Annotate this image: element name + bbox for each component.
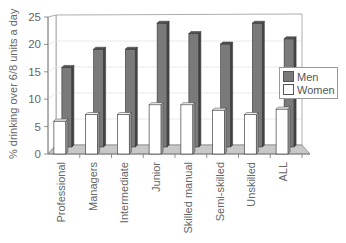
bar-women-top — [244, 113, 258, 115]
bar-women-side — [98, 113, 100, 154]
bar-women — [181, 105, 193, 154]
x-tick-label: Managers — [87, 162, 99, 211]
plot-area: 0510152025ProfessionalManagersIntermedia… — [0, 0, 346, 243]
x-tick-label: ALL — [277, 162, 289, 182]
bar-women — [244, 115, 256, 154]
legend-item-women: Women — [283, 84, 335, 96]
legend-swatch-men — [283, 71, 294, 82]
bar-men-side — [72, 65, 74, 147]
bar-women-top — [276, 107, 290, 109]
y-tick-label: 0 — [35, 148, 41, 160]
x-tick-label: Semi-skilled — [214, 162, 226, 221]
bar-women-side — [66, 119, 68, 154]
bar-men-side — [231, 42, 233, 147]
bar-women-side — [161, 103, 163, 154]
bar-women — [86, 115, 98, 154]
bar-women — [213, 110, 225, 154]
bar-women-side — [256, 113, 258, 154]
legend-swatch-women — [283, 84, 294, 95]
bar-women-top — [213, 108, 227, 110]
legend-label-men: Men — [297, 71, 318, 83]
bar-women-top — [86, 113, 100, 115]
y-tick-label: 20 — [28, 38, 41, 50]
bar-men-side — [104, 47, 106, 147]
x-tick-label: Junior — [150, 162, 162, 192]
bar-chart: 0510152025ProfessionalManagersIntermedia… — [0, 0, 346, 243]
y-tick-label: 15 — [28, 66, 41, 78]
y-tick-label: 25 — [28, 11, 41, 23]
bar-women-top — [149, 103, 163, 105]
x-tick-label: Skilled manual — [182, 162, 194, 234]
bar-women-top — [181, 103, 195, 105]
legend-item-men: Men — [283, 71, 318, 83]
x-tick-label: Professional — [55, 162, 67, 223]
bar-men-side — [167, 21, 169, 147]
bar-women — [149, 105, 161, 154]
bar-women-side — [288, 107, 290, 154]
x-tick-label: Intermediate — [118, 162, 130, 223]
bar-women — [276, 109, 288, 154]
y-tick-label: 5 — [35, 121, 41, 133]
legend: Men Women — [279, 67, 338, 99]
bar-men-side — [199, 32, 201, 147]
y-axis-label: % drinking over 6/8 units a day — [7, 9, 19, 159]
bar-women-side — [225, 108, 227, 154]
bar-women-top — [117, 113, 131, 115]
bar-women — [117, 115, 129, 154]
bar-men-side — [262, 21, 264, 147]
x-tick-label: Unskilled — [245, 162, 257, 207]
bar-women-side — [193, 103, 195, 154]
legend-label-women: Women — [297, 84, 335, 96]
bar-women-top — [54, 119, 68, 121]
bar-women — [54, 121, 66, 154]
bar-women-side — [129, 113, 131, 154]
y-tick-label: 10 — [28, 93, 41, 105]
bar-men-side — [135, 47, 137, 147]
